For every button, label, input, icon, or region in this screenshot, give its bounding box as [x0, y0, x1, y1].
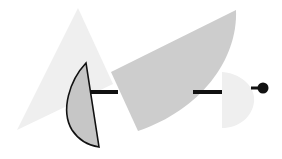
- end-dot: [258, 83, 269, 94]
- abstract-composition: [0, 0, 282, 159]
